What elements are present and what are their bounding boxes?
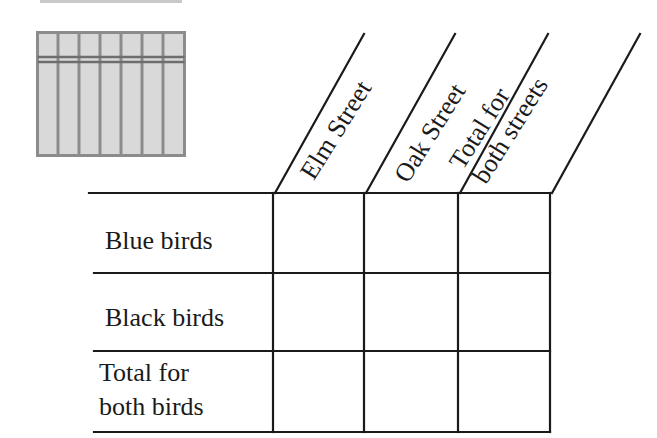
row-label-text: Blue birds: [105, 226, 213, 255]
cell-total-total[interactable]: [460, 353, 549, 431]
row-label-line1: Total for: [99, 356, 204, 390]
row-label-black-birds: Black birds: [105, 303, 224, 333]
cell-black-total[interactable]: [460, 275, 549, 350]
row-label-line2: both birds: [99, 390, 204, 424]
row-label-blue-birds: Blue birds: [105, 226, 213, 256]
cell-black-elm[interactable]: [275, 275, 363, 350]
cell-blue-oak[interactable]: [366, 195, 457, 272]
row-label-text: Black birds: [105, 303, 224, 332]
cell-black-oak[interactable]: [366, 275, 457, 350]
cell-blue-elm[interactable]: [275, 195, 363, 272]
cell-blue-total[interactable]: [460, 195, 549, 272]
cell-total-oak[interactable]: [366, 353, 457, 431]
cell-total-elm[interactable]: [275, 353, 363, 431]
row-label-total-for-both-birds: Total for both birds: [99, 356, 204, 424]
